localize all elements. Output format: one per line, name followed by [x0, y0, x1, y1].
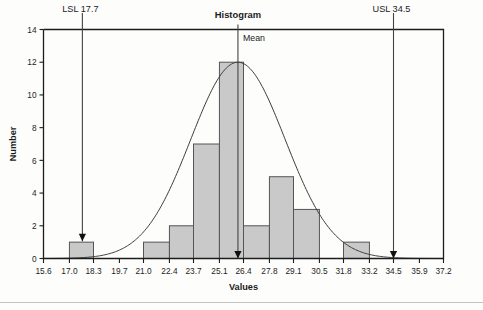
x-axis-tick-label: 18.3 [85, 266, 102, 276]
x-axis-tick-label: 29.1 [285, 266, 302, 276]
x-axis-tick-label: 25.1 [211, 266, 228, 276]
x-axis-tick-label: 21.0 [135, 266, 152, 276]
histogram-bar [294, 209, 320, 258]
y-axis-title: Number [8, 126, 18, 161]
y-axis-tick-label: 2 [32, 221, 37, 231]
histogram-bar [169, 226, 193, 259]
chart-title: Histogram [215, 9, 261, 20]
mean-label: Mean [243, 33, 265, 43]
x-axis-tick-label: 23.7 [185, 266, 202, 276]
x-axis-tick-label: 15.6 [35, 266, 52, 276]
x-axis-tick-label: 26.4 [235, 266, 252, 276]
x-axis-title: Values [229, 282, 258, 292]
usl-label: USL 34.5 [373, 4, 411, 14]
histogram-bar [144, 242, 170, 258]
x-axis-tick-label: 31.8 [335, 266, 352, 276]
y-axis-tick-label: 14 [27, 25, 37, 35]
histogram-bar [69, 242, 93, 258]
x-axis-tick-label: 30.5 [311, 266, 328, 276]
x-axis-tick-label: 37.2 [435, 266, 452, 276]
chart-canvas: 0246810121415.617.018.319.721.022.423.72… [0, 0, 483, 310]
y-axis-tick-label: 10 [27, 90, 37, 100]
histogram-bar [219, 62, 243, 258]
lsl-arrow-icon [79, 234, 86, 242]
histogram-bar [244, 226, 270, 259]
x-axis-tick-label: 22.4 [161, 266, 178, 276]
y-axis-tick-label: 4 [32, 188, 37, 198]
x-axis-tick-label: 33.2 [361, 266, 378, 276]
y-axis-tick-label: 8 [32, 123, 37, 133]
y-axis-tick-label: 6 [32, 156, 37, 166]
y-axis-tick-label: 12 [27, 57, 37, 67]
lsl-label: LSL 17.7 [62, 4, 98, 14]
x-axis-tick-label: 27.8 [261, 266, 278, 276]
histogram-bar [194, 144, 220, 259]
x-axis-tick-label: 34.5 [385, 266, 402, 276]
histogram-bar [269, 177, 293, 259]
y-axis-tick-label: 0 [32, 254, 37, 264]
x-axis-tick-label: 19.7 [111, 266, 128, 276]
x-axis-tick-label: 35.9 [411, 266, 428, 276]
histogram-chart: 0246810121415.617.018.319.721.022.423.72… [0, 0, 483, 310]
x-axis-tick-label: 17.0 [61, 266, 78, 276]
